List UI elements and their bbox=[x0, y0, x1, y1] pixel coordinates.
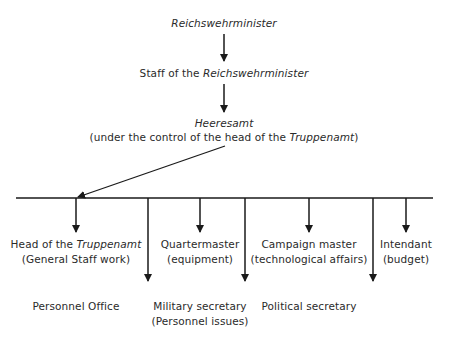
head-prefix: Head of the bbox=[11, 238, 77, 250]
connector-lines bbox=[0, 0, 450, 345]
node-quartermaster: Quartermaster bbox=[161, 238, 240, 251]
node-intendant-sub: (budget) bbox=[383, 253, 429, 266]
node-political-secretary: Political secretary bbox=[262, 300, 357, 313]
note-prefix: (under the control of the head of the bbox=[90, 131, 290, 143]
node-head-truppenamt-sub: (General Staff work) bbox=[22, 253, 130, 266]
node-personnel-office: Personnel Office bbox=[32, 300, 119, 313]
staff-prefix: Staff of the bbox=[140, 67, 203, 79]
node-reichswehrminister: Reichswehrminister bbox=[171, 17, 276, 30]
node-campaign-master: Campaign master bbox=[261, 238, 356, 251]
note-name: Truppenamt bbox=[289, 131, 354, 143]
node-head-truppenamt: Head of the Truppenamt bbox=[11, 238, 142, 251]
node-military-secretary-sub: (Personnel issues) bbox=[151, 315, 248, 328]
arrow-heeresamt-to-bus bbox=[78, 146, 225, 197]
node-staff-of-minister: Staff of the Reichswehrminister bbox=[140, 67, 309, 80]
node-intendant: Intendant bbox=[380, 238, 432, 251]
node-heeresamt-note: (under the control of the head of the Tr… bbox=[90, 131, 359, 144]
node-quartermaster-sub: (equipment) bbox=[167, 253, 233, 266]
node-military-secretary: Military secretary bbox=[153, 300, 246, 313]
node-heeresamt: Heeresamt bbox=[195, 117, 254, 130]
node-campaign-master-sub: (technological affairs) bbox=[251, 253, 368, 266]
head-name: Truppenamt bbox=[77, 238, 142, 250]
staff-name: Reichswehrminister bbox=[203, 67, 308, 79]
note-suffix: ) bbox=[354, 131, 358, 143]
